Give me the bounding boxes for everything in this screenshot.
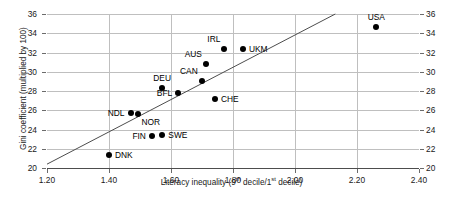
x-tick-label: 1.80: [213, 175, 253, 185]
data-point-label: DEU: [153, 73, 171, 83]
y-tick-mark: [420, 91, 424, 92]
gridline-vertical: [47, 14, 48, 168]
y-tick-mark: [42, 91, 46, 92]
y-tick-label: 32: [15, 48, 37, 58]
data-point-marker: [221, 46, 227, 52]
y-tick-label: 36: [15, 9, 37, 19]
y-tick-mark: [420, 149, 424, 150]
y-tick-label: 20: [426, 163, 448, 173]
y-tick-label: 30: [15, 67, 37, 77]
data-point-label: NOR: [142, 117, 161, 127]
y-tick-mark: [420, 110, 424, 111]
x-tick-mark: [233, 169, 234, 173]
data-point-marker: [149, 133, 155, 139]
y-tick-label: 36: [426, 9, 448, 19]
data-point-label: NDL: [108, 108, 125, 118]
data-point-marker: [373, 24, 379, 30]
x-tick-label: 1.40: [89, 175, 129, 185]
x-tick-label: 2.40: [399, 175, 439, 185]
x-tick-label: 2.20: [337, 175, 377, 185]
y-tick-mark: [420, 72, 424, 73]
y-tick-label: 22: [426, 144, 448, 154]
data-point-marker: [203, 61, 209, 67]
x-tick-mark: [419, 169, 420, 173]
data-point-label: FIN: [132, 131, 146, 141]
y-tick-label: 34: [426, 28, 448, 38]
y-tick-label: 30: [426, 67, 448, 77]
x-tick-label: 1.20: [27, 175, 67, 185]
gridline-vertical: [295, 14, 296, 168]
data-point-marker: [159, 132, 165, 138]
y-tick-mark: [420, 130, 424, 131]
scatter-chart-figure: Gini coefficient (multiplied by 100) Lit…: [0, 0, 463, 199]
gridline-vertical: [233, 14, 234, 168]
y-tick-mark: [42, 14, 46, 15]
x-tick-mark: [109, 169, 110, 173]
data-point-label: USA: [368, 12, 385, 22]
y-tick-label: 22: [15, 144, 37, 154]
gridline-vertical: [357, 14, 358, 168]
x-tick-mark: [47, 169, 48, 173]
data-point-marker: [212, 96, 218, 102]
gridline-vertical: [109, 14, 110, 168]
y-tick-mark: [42, 149, 46, 150]
data-point-label: AUS: [185, 49, 202, 59]
x-tick-label: 2.00: [275, 175, 315, 185]
data-point-label: UKM: [249, 44, 268, 54]
y-tick-mark: [42, 72, 46, 73]
data-point-marker: [240, 46, 246, 52]
y-tick-label: 24: [426, 125, 448, 135]
y-tick-label: 28: [15, 86, 37, 96]
data-point-marker: [135, 111, 141, 117]
data-point-marker: [128, 110, 134, 116]
data-point-label: CAN: [180, 66, 198, 76]
data-point-marker: [175, 90, 181, 96]
data-point-marker: [106, 152, 112, 158]
y-tick-label: 26: [426, 105, 448, 115]
y-tick-label: 26: [15, 105, 37, 115]
y-tick-mark: [420, 53, 424, 54]
y-tick-mark: [420, 33, 424, 34]
data-point-label: CHE: [221, 94, 239, 104]
y-tick-mark: [42, 130, 46, 131]
y-tick-mark: [42, 33, 46, 34]
trendline-segment: [47, 14, 335, 164]
x-tick-mark: [295, 169, 296, 173]
data-point-label: DNK: [115, 150, 133, 160]
y-tick-label: 20: [15, 163, 37, 173]
x-tick-mark: [357, 169, 358, 173]
y-tick-label: 34: [15, 28, 37, 38]
y-tick-label: 28: [426, 86, 448, 96]
data-point-label: SWE: [168, 130, 187, 140]
y-tick-mark: [420, 168, 424, 169]
data-point-marker: [199, 78, 205, 84]
y-tick-mark: [42, 53, 46, 54]
data-point-label: IRL: [207, 34, 220, 44]
y-tick-label: 32: [426, 48, 448, 58]
y-tick-label: 24: [15, 125, 37, 135]
y-tick-mark: [42, 110, 46, 111]
y-tick-mark: [420, 14, 424, 15]
x-tick-mark: [171, 169, 172, 173]
x-tick-label: 1.60: [151, 175, 191, 185]
data-point-label: BFL: [157, 88, 172, 98]
y-tick-mark: [42, 168, 46, 169]
